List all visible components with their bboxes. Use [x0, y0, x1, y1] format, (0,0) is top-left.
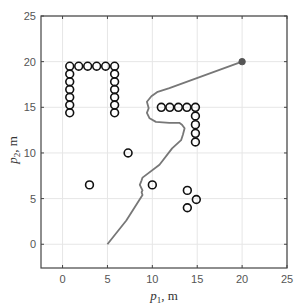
obstacle-marker — [102, 62, 110, 70]
obstacle-marker — [111, 70, 119, 78]
obstacle-marker — [192, 196, 200, 204]
x-tick-label: 10 — [146, 273, 158, 285]
y-tick-label: 15 — [24, 101, 36, 113]
obstacle-marker — [183, 204, 191, 212]
obstacle-marker — [93, 62, 101, 70]
obstacle-marker — [111, 86, 119, 94]
obstacle-marker — [75, 62, 83, 70]
obstacle-marker — [66, 70, 74, 78]
x-axis-label-unit: , m — [161, 288, 178, 303]
obstacle-marker — [111, 109, 119, 117]
obstacle-marker — [192, 129, 200, 137]
x-tick-label: 0 — [59, 273, 65, 285]
obstacle-marker — [111, 78, 119, 86]
y-tick-label: 20 — [24, 56, 36, 68]
obstacle-marker — [183, 186, 191, 194]
obstacle-marker — [66, 93, 74, 101]
y-tick-label: 10 — [24, 147, 36, 159]
obstacle-marker — [192, 121, 200, 129]
grid — [41, 16, 287, 268]
plot-area — [66, 58, 245, 244]
y-tick-label: 25 — [24, 10, 36, 22]
x-tick-label: 5 — [104, 273, 110, 285]
obstacle-marker — [66, 86, 74, 94]
obstacle-marker — [66, 78, 74, 86]
obstacle-marker — [192, 112, 200, 120]
obstacle-marker — [66, 109, 74, 117]
obstacle-marker — [192, 138, 200, 146]
axes-frame — [41, 16, 287, 268]
x-tick-label: 25 — [281, 273, 293, 285]
goal-marker — [239, 58, 245, 64]
ticks: 05101520250510152025 — [24, 10, 293, 285]
x-axis-label: p1, m — [149, 288, 178, 304]
x-tick-label: 15 — [191, 273, 203, 285]
obstacle-marker — [84, 62, 92, 70]
obstacle-marker — [111, 62, 119, 70]
y-tick-label: 0 — [30, 238, 36, 250]
y-axis-label-unit: , m — [5, 136, 20, 153]
y-axis-label: p2, m — [5, 136, 22, 165]
x-tick-label: 20 — [236, 273, 248, 285]
y-tick-label: 5 — [30, 193, 36, 205]
obstacle-marker — [111, 93, 119, 101]
chart: 05101520250510152025 p1, m p2, m — [0, 0, 303, 304]
obstacle-marker — [86, 181, 94, 189]
obstacle-marker — [66, 62, 74, 70]
